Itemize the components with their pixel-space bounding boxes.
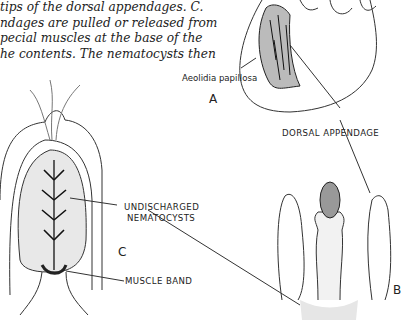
panel-b-drawing	[278, 120, 391, 320]
caption-line: pecial muscles at the base of the	[0, 31, 230, 47]
species-label: Aeolidia papillosa	[182, 73, 257, 84]
undischarged-label-line1: UNDISCHARGED	[124, 202, 199, 213]
caption-line: tips of the dorsal appendages. C.	[0, 0, 230, 16]
caption-text: tips of the dorsal appendages. C. ndages…	[0, 0, 230, 62]
undischarged-label-line2: NEMATOCYSTS	[127, 213, 195, 224]
panel-c-letter: C	[118, 245, 126, 259]
caption-line: he contents. The nematocysts then	[0, 47, 230, 63]
caption-line: ndages are pulled or released from	[0, 16, 230, 32]
muscle-band-label: MUSCLE BAND	[125, 276, 192, 287]
panel-b-letter: B	[393, 283, 401, 297]
panel-a-letter: A	[209, 92, 217, 106]
panel-a-drawing	[240, 0, 377, 112]
dorsal-appendage-label: DORSAL APPENDAGE	[282, 128, 379, 139]
